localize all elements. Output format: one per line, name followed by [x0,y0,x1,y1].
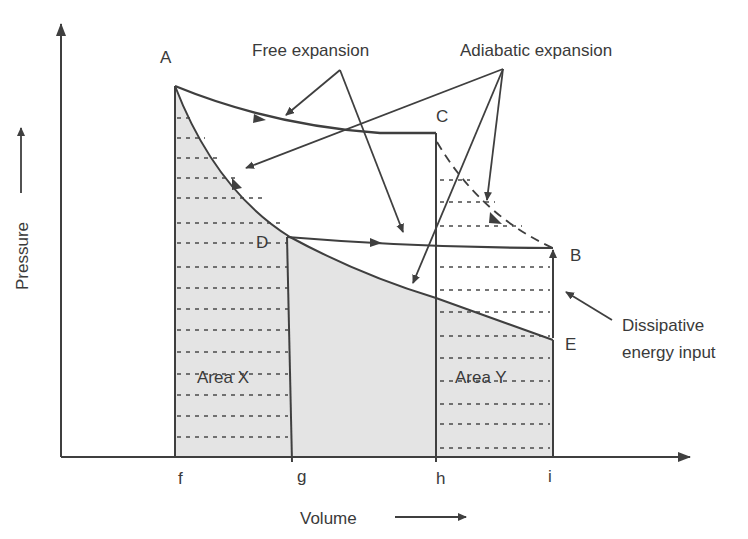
point-label-c: C [436,107,448,126]
tick-label-f: f [178,469,183,488]
free-expansion-label: Free expansion [252,41,369,60]
dissipative-pointer [566,292,612,320]
adiabatic-expansion-label: Adiabatic expansion [460,41,612,60]
x-axis-title: Volume [300,509,357,528]
tick-label-g: g [297,467,306,486]
point-label-a: A [160,48,172,67]
tick-label-h: h [436,469,445,488]
y-axis-title: Pressure [13,222,32,290]
area-y-label: Area Y [455,368,507,387]
arrow-c-b [489,212,502,224]
point-label-e: E [565,335,576,354]
free-expansion-pointer-2 [340,70,403,232]
dissipative-label-line1: Dissipative [622,316,704,335]
arrow-a-e [232,178,242,190]
point-label-b: B [570,246,581,265]
tick-label-i: i [548,467,552,486]
point-label-d: D [256,233,268,252]
area-x-label: Area X [197,368,249,387]
free-expansion-pointer-1 [286,70,340,115]
arrow-d-b [370,238,382,247]
pv-diagram: A C D B E Area X Area Y Free expansion A… [0,0,748,539]
adiabatic-curve-c-b [437,142,553,248]
dissipative-label-line2: energy input [622,343,716,362]
free-expansion-curve-d-b [287,237,553,248]
